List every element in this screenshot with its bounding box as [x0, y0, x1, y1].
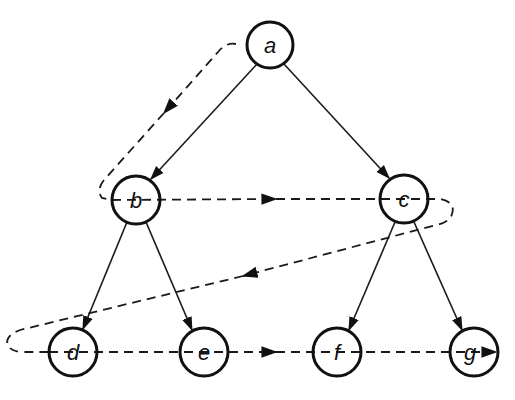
edge-b-e [146, 222, 192, 330]
traversal-segment-a-to-b-1 [164, 44, 236, 113]
node-label-c: c [399, 187, 410, 212]
edge-c-g [414, 222, 462, 330]
node-label-g: g [464, 340, 477, 365]
edge-a-b [151, 64, 257, 179]
edge-a-c [284, 64, 389, 178]
node-a: a [247, 22, 293, 68]
traversal-path [7, 44, 496, 352]
tree-traversal-diagram: a b c d e f g [0, 0, 515, 400]
node-label-b: b [130, 188, 142, 213]
node-label-d: d [67, 340, 80, 365]
node-label-e: e [198, 340, 210, 365]
node-label-a: a [264, 33, 276, 58]
